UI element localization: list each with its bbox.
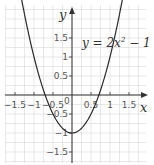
x-tick-label: 1 xyxy=(107,100,113,110)
y-axis-arrow-icon xyxy=(69,7,75,14)
y-tick-label: 1 xyxy=(62,52,68,62)
x-axis-label: x xyxy=(140,100,148,115)
origin-label: 0 xyxy=(64,96,70,106)
x-tick-label: −1 xyxy=(27,100,40,110)
y-tick-label: −1.5 xyxy=(46,147,68,157)
grid-lines xyxy=(5,5,146,163)
equation-label: y = 2x2 − 1 xyxy=(81,36,151,50)
y-tick-label: −1 xyxy=(55,128,68,138)
parabola-chart: −1.5−1−0.50.511.51.510.5−0.5−1−1.5 x y 0… xyxy=(0,0,154,165)
x-tick-label: 1.5 xyxy=(122,100,136,110)
y-tick-label: 0.5 xyxy=(54,71,68,81)
axes xyxy=(5,7,148,163)
y-tick-label: −0.5 xyxy=(46,109,68,119)
x-axis-arrow-icon xyxy=(141,92,148,98)
y-tick-label: 1.5 xyxy=(54,33,68,43)
x-tick-label: −1.5 xyxy=(4,100,26,110)
y-axis-label: y xyxy=(58,7,67,22)
